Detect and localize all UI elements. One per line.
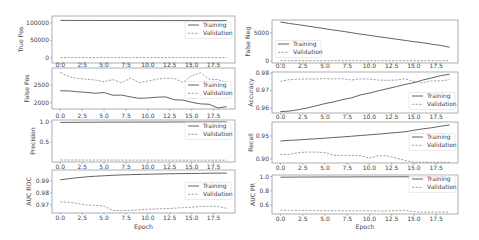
legend-label-training: Training	[426, 92, 451, 100]
x-tick-label: 5.0	[320, 215, 330, 222]
x-tick-label: 12.5	[385, 215, 399, 222]
x-axis-label: Epoch	[356, 223, 375, 231]
subplot-false-pos: 0.02.55.07.510.012.515.017.520002500Fals…	[23, 68, 235, 119]
x-tick-label: 17.5	[207, 61, 221, 68]
legend: TrainingValidation	[409, 92, 457, 110]
y-axis-label: False Pos	[23, 74, 30, 102]
x-tick-label: 12.5	[163, 214, 177, 221]
x-tick-label: 0.0	[56, 112, 66, 119]
x-tick-label: 7.5	[121, 112, 131, 119]
x-tick-label: 2.5	[77, 214, 87, 221]
y-tick-label: 0.90	[256, 155, 270, 162]
x-tick-label: 17.5	[207, 214, 221, 221]
training-metrics-figure: 0.02.55.07.510.012.515.017.5050000100000…	[0, 0, 479, 240]
legend-label-training: Training	[202, 81, 227, 89]
legend-label-training: Training	[202, 21, 227, 29]
x-tick-label: 7.5	[121, 163, 131, 170]
x-tick-label: 2.5	[298, 113, 308, 120]
subplot-precision: 0.02.55.07.510.012.515.017.50.51.0Precis…	[29, 118, 235, 170]
y-tick-label: 0.6	[259, 201, 269, 208]
x-tick-label: 10.0	[363, 215, 377, 222]
x-tick-label: 2.5	[77, 112, 87, 119]
x-tick-label: 15.0	[407, 164, 421, 171]
subplot-true-pos: 0.02.55.07.510.012.515.017.5050000100000…	[17, 16, 235, 68]
subplot-accuracy: 0.02.55.07.510.012.515.017.50.960.970.98…	[247, 69, 458, 120]
x-axis-label: Epoch	[134, 223, 153, 231]
x-tick-label: 10.0	[363, 62, 377, 69]
x-tick-label: 15.0	[407, 62, 421, 69]
y-tick-label: 0.97	[36, 201, 50, 208]
legend: TrainingValidation	[185, 21, 233, 39]
legend-label-validation: Validation	[293, 48, 323, 55]
validation-line	[280, 152, 449, 162]
y-tick-label: 2500	[34, 81, 49, 88]
x-tick-label: 10.0	[141, 214, 155, 221]
x-tick-label: 12.5	[385, 62, 399, 69]
y-axis-label: Recall	[247, 133, 254, 152]
x-tick-label: 10.0	[363, 164, 377, 171]
y-axis-label: True Pos	[17, 27, 24, 54]
x-tick-label: 0.0	[276, 215, 286, 222]
x-tick-label: 5.0	[320, 164, 330, 171]
x-tick-label: 10.0	[141, 112, 155, 119]
x-tick-label: 17.5	[430, 62, 444, 69]
x-tick-label: 15.0	[407, 113, 421, 120]
x-tick-label: 17.5	[207, 163, 221, 170]
y-axis-label: False Neg	[244, 27, 252, 57]
x-tick-label: 2.5	[298, 215, 308, 222]
x-tick-label: 12.5	[385, 113, 399, 120]
y-tick-label: 0.96	[256, 104, 270, 111]
y-tick-label: 50000	[30, 36, 49, 43]
x-tick-label: 0.0	[56, 214, 66, 221]
legend: TrainingValidation	[185, 182, 233, 200]
legend-label-validation: Validation	[203, 130, 233, 137]
x-tick-label: 12.5	[385, 164, 399, 171]
x-tick-label: 10.0	[141, 61, 155, 68]
x-tick-label: 17.5	[430, 113, 444, 120]
x-tick-label: 5.0	[320, 62, 330, 69]
legend-label-validation: Validation	[203, 190, 233, 197]
x-tick-label: 5.0	[99, 61, 109, 68]
x-tick-label: 15.0	[185, 112, 199, 119]
y-axis-label: Precision	[29, 127, 36, 155]
x-tick-label: 17.5	[207, 112, 221, 119]
x-tick-label: 10.0	[141, 163, 155, 170]
legend-label-validation: Validation	[427, 183, 457, 190]
y-tick-label: 0.5	[39, 138, 49, 145]
x-tick-label: 5.0	[99, 112, 109, 119]
legend: TrainingValidation	[185, 81, 233, 99]
x-tick-label: 12.5	[163, 163, 177, 170]
x-tick-label: 17.5	[430, 215, 444, 222]
x-tick-label: 7.5	[342, 113, 352, 120]
y-tick-label: 0.99	[36, 177, 50, 184]
x-tick-label: 0.0	[276, 62, 286, 69]
x-tick-label: 15.0	[185, 163, 199, 170]
legend-label-training: Training	[426, 133, 451, 141]
x-tick-label: 17.5	[430, 164, 444, 171]
subplot-recall: 0.02.55.07.510.012.515.017.50.900.95Reca…	[247, 122, 458, 171]
y-tick-label: 0.95	[256, 132, 270, 139]
y-axis-label: AUC PR	[249, 182, 256, 206]
y-tick-label: 5000	[254, 29, 269, 36]
x-tick-label: 15.0	[407, 215, 421, 222]
y-tick-label: 0.8	[259, 187, 269, 194]
subplot-auc-roc: 0.02.55.07.510.012.515.017.50.970.980.99…	[25, 170, 235, 231]
x-tick-label: 0.0	[276, 164, 286, 171]
x-tick-label: 2.5	[77, 61, 87, 68]
x-tick-label: 7.5	[342, 62, 352, 69]
legend: TrainingValidation	[409, 133, 457, 151]
legend: TrainingValidation	[185, 122, 233, 140]
validation-line	[60, 202, 226, 211]
x-tick-label: 7.5	[342, 164, 352, 171]
x-tick-label: 12.5	[163, 112, 177, 119]
x-tick-label: 15.0	[185, 214, 199, 221]
y-tick-label: 1.0	[39, 118, 49, 125]
legend: TrainingValidation	[409, 175, 457, 193]
legend-label-training: Training	[202, 122, 227, 130]
x-tick-label: 5.0	[99, 214, 109, 221]
legend-label-validation: Validation	[427, 141, 457, 148]
x-tick-label: 7.5	[342, 215, 352, 222]
training-line	[60, 173, 226, 180]
y-tick-label: 0.98	[256, 69, 270, 76]
y-axis-label: Accuracy	[247, 78, 255, 107]
